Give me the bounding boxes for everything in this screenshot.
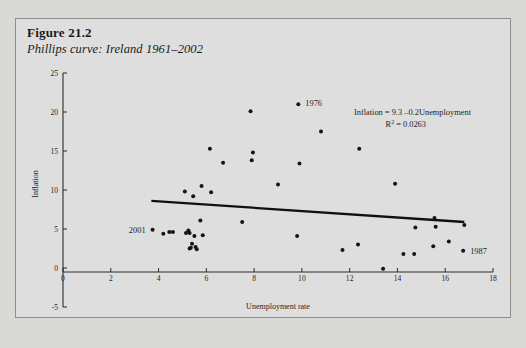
- data-point: [447, 239, 451, 243]
- data-point: [195, 247, 199, 251]
- x-axis-label: Unemployment rate: [246, 302, 310, 311]
- y-tick-label: 10: [50, 186, 58, 195]
- data-point: [357, 147, 361, 151]
- x-tick-label: 18: [489, 274, 497, 283]
- data-point: [412, 252, 416, 256]
- point-year-label: 1976: [305, 99, 322, 108]
- data-point: [431, 244, 435, 248]
- data-point: [462, 223, 466, 227]
- page-background: Figure 21.2 Phillips curve: Ireland 1961…: [0, 0, 526, 348]
- x-tick-label: 0: [61, 274, 65, 283]
- data-point: [201, 233, 205, 237]
- data-point: [251, 151, 255, 155]
- data-point: [221, 161, 225, 165]
- y-tick-label: 20: [50, 108, 58, 117]
- data-point: [188, 231, 192, 235]
- data-point: [189, 246, 193, 250]
- point-year-label: 1987: [470, 247, 487, 256]
- data-point: [461, 249, 465, 253]
- data-point: [200, 184, 204, 188]
- data-point: [401, 252, 405, 256]
- r-squared-annotation: R2= 0.0263: [386, 119, 426, 129]
- y-tick-label: 0: [54, 264, 58, 273]
- data-point: [341, 248, 345, 252]
- data-point: [295, 234, 299, 238]
- data-point: [240, 220, 244, 224]
- data-point: [413, 225, 417, 229]
- data-point: [190, 242, 194, 246]
- r-squared-value: = 0.0263: [396, 120, 426, 129]
- data-point: [356, 243, 360, 247]
- data-point: [208, 147, 212, 151]
- data-point: [393, 182, 397, 186]
- data-point: [209, 190, 213, 194]
- data-point: [161, 232, 165, 236]
- data-point: [250, 158, 254, 162]
- point-year-label: 2001: [129, 226, 146, 235]
- y-tick-label: -5: [52, 303, 59, 312]
- data-point: [298, 161, 302, 165]
- y-tick-label: 5: [54, 225, 58, 234]
- data-point: [167, 230, 171, 234]
- x-tick-label: 14: [394, 274, 402, 283]
- scatter-plot: -50510152025 024681012141618 Inflation U…: [16, 19, 512, 319]
- regression-line: [151, 201, 464, 222]
- data-point: [191, 194, 195, 198]
- data-point: [296, 102, 300, 106]
- plot-canvas: -50510152025 024681012141618 Inflation U…: [16, 19, 512, 319]
- data-point: [432, 216, 436, 220]
- data-point: [151, 228, 155, 232]
- x-tick-label: 4: [157, 274, 161, 283]
- x-tick-label: 16: [441, 274, 449, 283]
- x-axis-ticks: 024681012141618: [61, 268, 497, 283]
- y-tick-label: 15: [50, 147, 58, 156]
- y-axis-label: Inflation: [31, 170, 40, 198]
- y-tick-label: 25: [50, 69, 58, 78]
- x-tick-label: 2: [109, 274, 113, 283]
- data-point: [434, 225, 438, 229]
- regression-equation: Inflation = 9.3 –0.2Unemployment: [354, 108, 472, 117]
- data-point: [249, 109, 253, 113]
- data-point: [276, 183, 280, 187]
- data-point: [171, 230, 175, 234]
- data-point: [198, 218, 202, 222]
- x-tick-label: 10: [298, 274, 306, 283]
- data-point: [319, 130, 323, 134]
- x-tick-label: 8: [252, 274, 256, 283]
- data-point: [183, 190, 187, 194]
- figure-panel: Figure 21.2 Phillips curve: Ireland 1961…: [15, 18, 511, 318]
- x-tick-label: 6: [204, 274, 208, 283]
- x-tick-label: 12: [346, 274, 354, 283]
- data-point: [381, 267, 385, 271]
- r-squared-exponent: 2: [391, 119, 394, 125]
- point-label-group: 200119761987: [129, 99, 487, 256]
- data-point: [192, 234, 196, 238]
